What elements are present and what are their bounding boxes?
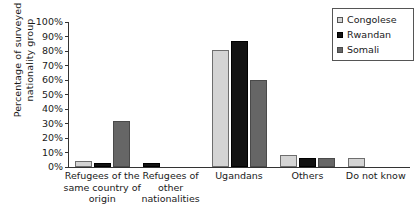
bar-congolese	[212, 50, 229, 167]
bar-group	[75, 22, 130, 167]
bar-congolese	[348, 158, 365, 167]
bar-group	[280, 22, 335, 167]
y-axis-tick-label: 50%	[42, 89, 63, 100]
legend-item[interactable]: Congolese	[337, 12, 408, 27]
x-axis-line	[68, 167, 410, 168]
bar-congolese	[280, 155, 297, 167]
bar-somali	[113, 121, 130, 167]
y-axis-tick-label: 20%	[42, 132, 63, 143]
bar-group-bars	[280, 22, 335, 167]
legend-item[interactable]: Somali	[337, 42, 408, 57]
bar-rwandan	[231, 41, 248, 167]
legend-item[interactable]: Rwandan	[337, 27, 408, 42]
bar-group	[143, 22, 198, 167]
bar-somali	[250, 80, 267, 167]
bar-group	[212, 22, 267, 167]
legend-swatch-icon	[337, 47, 343, 53]
y-axis-tick-label: 80%	[42, 45, 63, 56]
legend-item-label: Congolese	[347, 14, 397, 25]
bar-rwandan	[143, 163, 160, 167]
y-axis-tick-label: 60%	[42, 74, 63, 85]
bar-somali	[318, 158, 335, 167]
bar-chart: Percentage of surveyed nationality group…	[0, 0, 418, 224]
bar-rwandan	[299, 158, 316, 167]
legend-swatch-icon	[337, 17, 343, 23]
legend-item-label: Somali	[347, 44, 379, 55]
y-axis-tick-label: 90%	[42, 31, 63, 42]
bar-group-bars	[212, 22, 267, 167]
y-axis-tick-label: 100%	[36, 16, 63, 27]
y-axis-tick-label: 30%	[42, 118, 63, 129]
bar-group-bars	[143, 22, 198, 167]
legend-swatch-icon	[337, 32, 343, 38]
y-axis-tick-label: 10%	[42, 147, 63, 158]
x-axis-tick-list: Refugees of the same country of originRe…	[68, 170, 410, 224]
bar-rwandan	[94, 163, 111, 167]
legend-item-label: Rwandan	[347, 29, 391, 40]
y-axis-tick-label: 40%	[42, 103, 63, 114]
x-axis-tick-label: Do not know	[334, 170, 418, 182]
y-axis-tick-label: 70%	[42, 60, 63, 71]
y-axis-tick-list: 100%90%80%70%60%50%40%30%20%10%0%	[0, 0, 68, 190]
bar-congolese	[75, 161, 92, 167]
bar-group-bars	[75, 22, 130, 167]
legend: CongoleseRwandanSomali	[332, 8, 414, 61]
